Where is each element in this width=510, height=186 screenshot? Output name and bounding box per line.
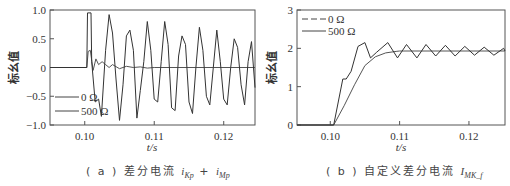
chart-b-y-label: 标幺值 xyxy=(265,51,279,85)
series-line xyxy=(297,51,505,125)
chart-a-y-label: 标幺值 xyxy=(7,51,21,85)
y-tick-label: 0 xyxy=(288,119,294,131)
legend-entry: 0 Ω xyxy=(81,91,97,103)
x-tick-label: 0.12 xyxy=(459,130,478,142)
y-tick-label: −1.0 xyxy=(26,119,46,131)
chart-a-caption-sub2: Mp xyxy=(219,171,230,180)
x-tick-label: 0.12 xyxy=(214,130,233,142)
chart-a-x-axis: 0.100.110.12 xyxy=(75,121,233,142)
chart-b-x-label: t/s xyxy=(396,141,406,153)
chart-a-caption-text: ( a ) 差分电流 xyxy=(86,165,181,178)
legend-entry: 500 Ω xyxy=(81,105,108,117)
y-tick-label: 1.0 xyxy=(32,4,46,16)
chart-a-caption-sub1: Kp xyxy=(184,171,193,180)
chart-b-legend: 0 Ω500 Ω xyxy=(302,13,355,37)
chart-b-caption-sub1: MK_f xyxy=(464,171,482,180)
y-tick-label: 0 xyxy=(41,62,47,74)
y-tick-label: 2 xyxy=(288,42,294,54)
chart-a: 1.00.50−0.5−1.0 0.100.110.12 0 Ω500 Ω 标幺… xyxy=(7,4,255,153)
y-tick-label: 3 xyxy=(288,4,294,16)
legend-entry: 0 Ω xyxy=(328,13,344,25)
series-line xyxy=(297,43,505,125)
chart-b-series xyxy=(297,43,505,125)
y-tick-label: 1 xyxy=(288,81,294,93)
chart-b-x-axis: 0.100.110.12 xyxy=(321,121,479,142)
y-tick-label: −0.5 xyxy=(26,90,46,102)
chart-a-caption-plus: + xyxy=(194,165,216,178)
chart-a-caption: ( a ) 差分电流 iKp + iMp xyxy=(86,162,230,180)
chart-b-caption-text: ( b ) 自定义差分电流 xyxy=(326,165,461,178)
x-tick-label: 0.10 xyxy=(75,130,95,142)
x-tick-label: 0.10 xyxy=(321,130,341,142)
chart-a-legend: 0 Ω500 Ω xyxy=(55,91,108,117)
chart-b: 3210 0.100.110.12 0 Ω500 Ω 标幺值 t/s xyxy=(265,4,505,153)
legend-entry: 500 Ω xyxy=(328,25,355,37)
chart-b-y-axis: 3210 xyxy=(288,4,302,131)
figure: 1.00.50−0.5−1.0 0.100.110.12 0 Ω500 Ω 标幺… xyxy=(0,0,510,186)
y-tick-label: 0.5 xyxy=(32,33,46,45)
chart-b-caption: ( b ) 自定义差分电流 IMK_f xyxy=(326,162,482,180)
chart-a-x-label: t/s xyxy=(147,141,157,153)
